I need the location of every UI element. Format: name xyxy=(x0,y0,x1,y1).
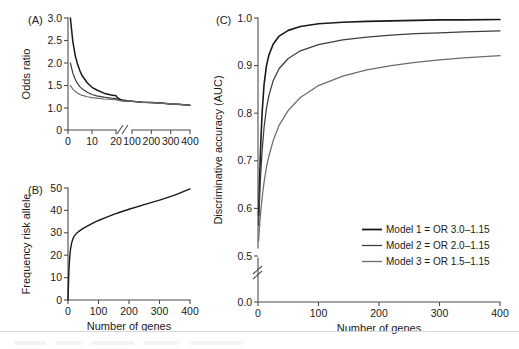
panel-a-xtick-label: 400 xyxy=(181,135,199,147)
panel-c-ytick-label: 0.0 xyxy=(237,296,252,308)
panel-c-letter: (C) xyxy=(216,14,231,26)
panel-c-xtick-label: 400 xyxy=(491,307,509,319)
panel-a-ytick-label: 2.5 xyxy=(47,34,62,46)
panel-c-curve-2 xyxy=(259,31,500,225)
legend-label-3: Model 3 = OR 1.5–1.15 xyxy=(386,256,490,267)
panel-a-axis-break xyxy=(117,125,128,134)
panel-c-ytick-label: 0.7 xyxy=(237,154,252,166)
panel-c-ytick-label: 0.5 xyxy=(237,250,252,262)
panel-b-curve-1 xyxy=(68,189,190,300)
panel-c-ytick-label: 1.0 xyxy=(237,12,252,24)
panel-a-ytick-label: 2.0 xyxy=(47,57,62,69)
panel-b-ytick-label: 40 xyxy=(50,204,62,216)
figure-svg: (A)01.01.52.02.53.001020100200300400Odds… xyxy=(0,0,519,349)
panel-b-ytick-label: 0 xyxy=(56,294,62,306)
panel-a-ytick-label: 3.0 xyxy=(47,12,62,24)
panel-a-curve-3 xyxy=(70,86,190,106)
panel-c-ytick-label: 0.8 xyxy=(237,107,252,119)
legend-label-2: Model 2 = OR 2.0–1.15 xyxy=(386,240,490,251)
panel-b: (B)010203040500100200300400Frequency ris… xyxy=(20,182,199,332)
panel-b-axes xyxy=(68,188,190,300)
panel-c-xtick-label: 300 xyxy=(431,307,449,319)
panel-c-ytick-label: 0.9 xyxy=(237,59,252,71)
panel-a-ytick-label: 1.5 xyxy=(47,79,62,91)
caption-ghost-text xyxy=(14,341,244,345)
panel-a-xtick-label: 0 xyxy=(65,135,71,147)
panel-c-xtick-label: 100 xyxy=(310,307,328,319)
panel-a-xtick-label: 10 xyxy=(86,135,98,147)
panel-c-xtick-label: 0 xyxy=(255,307,261,319)
panel-a: (A)01.01.52.02.53.001020100200300400Odds… xyxy=(20,12,199,147)
panel-c-xtick-label: 200 xyxy=(370,307,388,319)
panel-b-ytick-label: 20 xyxy=(50,249,62,261)
panel-a-letter: (A) xyxy=(28,14,43,26)
panel-a-xtick-label: 100 xyxy=(123,135,141,147)
panel-b-xtick-label: 400 xyxy=(181,305,199,317)
panel-c-xlabel: Number of genes xyxy=(337,322,422,334)
panel-b-xtick-label: 0 xyxy=(65,305,71,317)
panel-b-ytick-label: 30 xyxy=(50,226,62,238)
panel-b-ytick-label: 10 xyxy=(50,271,62,283)
panel-b-ylabel: Frequency risk allele xyxy=(20,194,32,295)
panel-c-ytick-label: 0.6 xyxy=(237,202,252,214)
panel-a-xtick-label: 20 xyxy=(110,135,122,147)
panel-b-ytick-label: 50 xyxy=(50,182,62,194)
panel-b-xtick-label: 300 xyxy=(151,305,169,317)
panel-c-curve-1 xyxy=(259,19,500,215)
panel-a-ytick-label: 1.0 xyxy=(47,102,62,114)
panel-a-xtick-label: 200 xyxy=(143,135,161,147)
panel-a-ylabel: Odds ratio xyxy=(20,49,32,100)
panel-c: (C)0.00.50.60.70.80.91.00100200300400Dis… xyxy=(212,12,509,334)
panel-c-legend: Model 1 = OR 3.0–1.15Model 2 = OR 2.0–1.… xyxy=(362,224,490,267)
panel-c-curve-3 xyxy=(259,56,500,241)
panel-c-ylabel: Discriminative accuracy (AUC) xyxy=(212,75,224,224)
panel-b-xtick-label: 100 xyxy=(90,305,108,317)
footer-divider xyxy=(0,331,519,332)
panel-a-xtick-label: 300 xyxy=(162,135,180,147)
panel-b-xtick-label: 200 xyxy=(120,305,138,317)
panel-a-ytick-label: 0 xyxy=(56,124,62,136)
legend-label-1: Model 1 = OR 3.0–1.15 xyxy=(386,224,490,235)
figure-canvas: (A)01.01.52.02.53.001020100200300400Odds… xyxy=(0,0,519,349)
